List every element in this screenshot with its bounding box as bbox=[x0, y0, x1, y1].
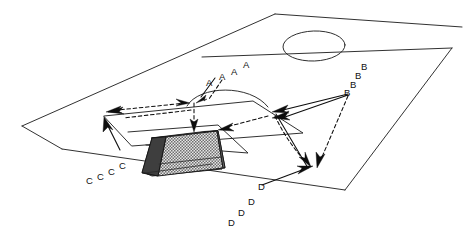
penalty-arc bbox=[187, 90, 268, 107]
label-c-4: C bbox=[119, 160, 126, 171]
arrow-d-up-line bbox=[276, 114, 308, 168]
label-d-2: D bbox=[238, 207, 245, 218]
player-group-labels: A A A A B B B B C C C C D D D D bbox=[86, 59, 367, 228]
arrowhead-d-corner bbox=[297, 166, 313, 174]
goal-with-net bbox=[142, 131, 225, 177]
arrowhead-a-down bbox=[190, 119, 198, 132]
label-c-3: C bbox=[108, 166, 115, 177]
label-a-1: A bbox=[206, 77, 213, 88]
halfway-line bbox=[202, 48, 452, 57]
arrow-c-up-left bbox=[108, 126, 120, 150]
label-b-4: B bbox=[361, 61, 367, 72]
centre-circle-ellipse bbox=[282, 30, 345, 62]
pitch-diagram-svg: A A A A B B B B C C C C D D D D bbox=[0, 0, 464, 239]
arrow-pass-left-lower bbox=[124, 110, 191, 118]
centre-circle bbox=[282, 30, 345, 62]
label-d-1: D bbox=[228, 217, 235, 228]
label-a-3: A bbox=[231, 66, 238, 77]
label-c-1: C bbox=[86, 175, 93, 186]
label-a-2: A bbox=[219, 71, 226, 82]
arrow-b-to-corner-dashed bbox=[322, 96, 348, 157]
goal-net-front bbox=[158, 131, 223, 176]
label-d-4: D bbox=[258, 181, 265, 192]
arrow-b-secondary bbox=[285, 95, 348, 117]
arrowhead-post-to-corner bbox=[299, 152, 311, 167]
arrow-b-to-near-post bbox=[283, 94, 348, 110]
penalty-arc-curve bbox=[187, 90, 268, 107]
label-c-2: C bbox=[97, 171, 104, 182]
arrow-inside-pass-left bbox=[230, 116, 268, 126]
label-a-4: A bbox=[243, 59, 250, 70]
touchline-top-right bbox=[275, 14, 462, 27]
label-d-3: D bbox=[248, 196, 255, 207]
touchline-left bbox=[22, 126, 62, 149]
soccer-drill-diagram: A A A A B B B B C C C C D D D D bbox=[0, 0, 464, 239]
